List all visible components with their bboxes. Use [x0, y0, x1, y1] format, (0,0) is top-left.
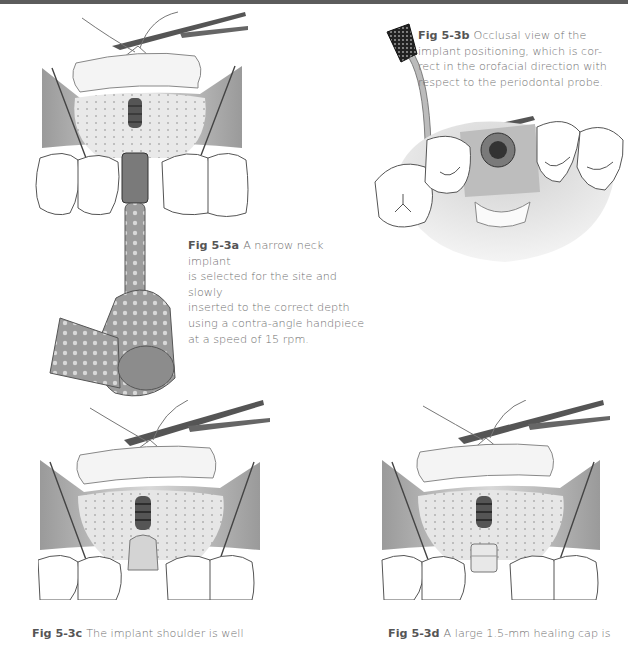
caption-line: respect to the periodontal probe. — [418, 76, 603, 89]
figure-5-3a-illustration — [30, 8, 260, 408]
healing-cap-drawing — [378, 400, 618, 600]
implant-shoulder-drawing — [38, 400, 278, 600]
figure-label: Fig 5-3d — [388, 627, 440, 640]
figure-label: Fig 5-3b — [418, 29, 470, 42]
figure-5-3b-caption: Fig 5-3bOcclusal view of the implant pos… — [418, 28, 628, 90]
caption-text: The implant shoulder is well — [86, 627, 243, 640]
caption-text: A large 1.5-mm healing cap is — [444, 627, 611, 640]
caption-line: using a contra-angle handpiece — [188, 317, 364, 330]
figure-label: Fig 5-3a — [188, 239, 239, 252]
figure-5-3c-caption: Fig 5-3cThe implant shoulder is well — [32, 626, 312, 642]
caption-line: is selected for the site and slowly — [188, 270, 337, 299]
page-header-bar — [0, 0, 628, 4]
implant-handpiece-drawing — [30, 8, 260, 408]
figure-5-3c-illustration — [38, 400, 278, 600]
caption-line: inserted to the correct depth — [188, 301, 350, 314]
caption-line: Occlusal view of the — [474, 29, 587, 42]
caption-line: at a speed of 15 rpm. — [188, 333, 309, 346]
figure-5-3d-caption: Fig 5-3dA large 1.5-mm healing cap is — [388, 626, 628, 642]
figure-5-3a-caption: Fig 5-3aA narrow neck implant is selecte… — [188, 238, 368, 347]
caption-line: implant positioning, which is cor- — [418, 45, 602, 58]
caption-line: rect in the orofacial direction with — [418, 60, 607, 73]
figure-5-3d-illustration — [378, 400, 618, 600]
figure-label: Fig 5-3c — [32, 627, 82, 640]
